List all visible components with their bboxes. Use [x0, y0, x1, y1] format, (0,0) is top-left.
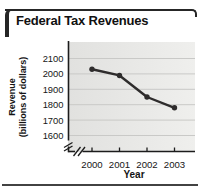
y-axis-label-line1: Revenue: [7, 78, 17, 116]
y-tick-label: 2100: [43, 53, 64, 64]
data-point: [172, 105, 177, 110]
line-chart: 2100200019001800170016002000200120022003: [35, 40, 201, 178]
y-tick-label: 1800: [43, 99, 64, 110]
y-tick-label: 2000: [43, 68, 64, 79]
data-point: [89, 67, 94, 72]
x-tick-label: 2000: [81, 159, 102, 170]
y-tick-label: 1700: [43, 115, 64, 126]
chart-title: Federal Tax Revenues: [16, 13, 148, 28]
data-point: [144, 94, 149, 99]
y-axis-label: Revenue (billions of dollars): [7, 51, 31, 143]
y-tick-label: 1600: [43, 130, 64, 141]
x-tick-label: 2003: [164, 159, 185, 170]
title-frame-bracket: [5, 9, 15, 37]
series-line: [92, 69, 175, 108]
x-tick-label: 2002: [136, 159, 157, 170]
x-axis-label: Year: [70, 169, 198, 180]
x-tick-label: 2001: [109, 159, 130, 170]
y-axis-label-line2: (billions of dollars): [18, 57, 28, 138]
data-point: [117, 73, 122, 78]
bottom-divider: [2, 184, 198, 186]
y-tick-label: 1900: [43, 84, 64, 95]
